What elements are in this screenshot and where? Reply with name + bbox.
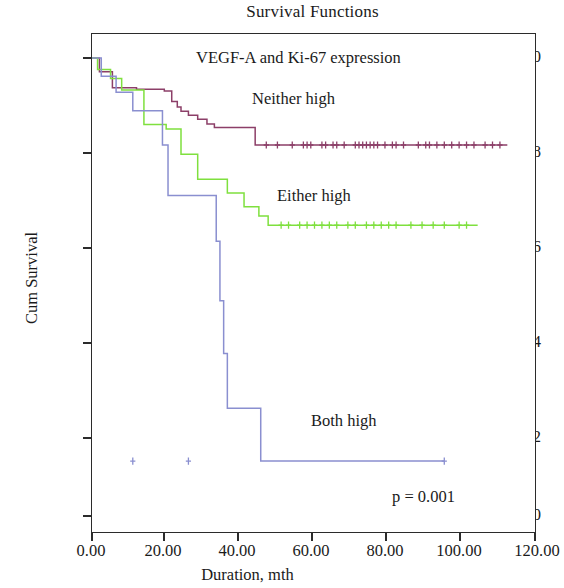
censor-mark [427,141,432,148]
x-tick-mark-20 [163,533,165,541]
censor-mark [393,141,398,148]
censor-mark [497,141,502,148]
curve-both-high [92,58,447,465]
censor-mark [482,141,487,148]
censor-mark [364,222,369,229]
censor-mark [371,222,376,229]
x-tick-label-60: 60.00 [273,541,349,561]
censor-mark [442,222,447,229]
x-tick-label-20: 20.00 [125,541,201,561]
x-axis-title: Duration, mth [0,565,541,585]
censor-mark [386,222,391,229]
censor-mark [353,222,358,229]
x-tick-mark-100 [459,533,461,541]
censor-mark [323,141,328,148]
y-tick-mark-0.6 [83,247,91,249]
curve-label-both-high: Both high [311,411,377,431]
x-tick-label-0: 0.00 [57,541,125,561]
censor-mark [279,222,284,229]
censor-mark [442,141,447,148]
y-tick-mark-1.0 [83,57,91,59]
censor-mark [264,141,269,148]
curve-label-neither-high: Neither high [252,89,335,109]
x-tick-mark-120 [534,533,536,541]
censor-mark [419,222,424,229]
curve-label-either-high: Either high [277,186,351,206]
censor-mark [457,222,462,229]
x-tick-mark-0 [91,533,93,541]
censor-mark [304,222,309,229]
x-tick-label-120: 120.00 [489,541,564,561]
censor-mark [442,457,447,464]
censor-mark [490,141,495,148]
x-tick-mark-80 [385,533,387,541]
censor-mark [416,141,421,148]
y-tick-mark-0.4 [83,342,91,344]
censor-mark [382,141,387,148]
censor-mark [286,222,291,229]
censor-mark [130,457,135,464]
censor-mark [464,141,469,148]
y-tick-mark-0.2 [83,437,91,439]
censor-mark [431,222,436,229]
y-tick-mark-0.0 [83,515,91,517]
x-tick-mark-60 [311,533,313,541]
censor-mark [312,222,317,229]
censor-mark [345,222,350,229]
censor-mark [457,141,462,148]
step-line [92,58,444,461]
x-tick-label-40: 40.00 [199,541,275,561]
p-value-annotation: p = 0.001 [392,487,455,507]
censor-mark [275,141,280,148]
censor-mark [319,222,324,229]
censor-mark [342,141,347,148]
censor-mark [408,222,413,229]
chart-title-text: Survival Functions [246,2,379,21]
y-tick-mark-0.8 [83,152,91,154]
y-axis-title: Cum Survival [22,198,42,358]
censor-mark [297,222,302,229]
censor-mark [379,222,384,229]
censor-mark [186,457,191,464]
censor-mark [290,141,295,148]
censor-mark [401,141,406,148]
censor-mark [375,141,380,148]
x-tick-mark-40 [237,533,239,541]
censor-mark [393,222,398,229]
censor-mark [471,141,476,148]
censor-mark [308,141,313,148]
censor-mark [449,141,454,148]
chart-title: Survival Functions [0,2,541,22]
censor-mark [334,222,339,229]
censor-mark [434,141,439,148]
plot-subtitle: VEGF-A and Ki-67 expression [196,48,401,68]
censor-mark [327,222,332,229]
censor-mark [334,141,339,148]
x-axis-title-text: Duration, mth [201,565,294,584]
censor-mark [464,222,469,229]
